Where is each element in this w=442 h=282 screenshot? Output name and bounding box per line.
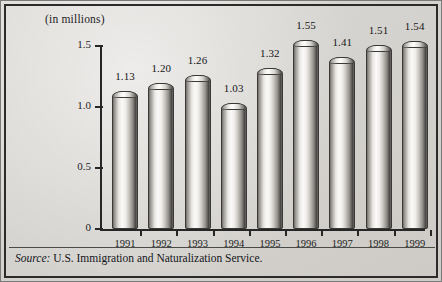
source-value: U.S. Immigration and Naturalization Serv… xyxy=(50,252,262,264)
bar-1991 xyxy=(112,91,138,229)
source-note: Source: U.S. Immigration and Naturalizat… xyxy=(15,252,262,264)
bar-value-label: 1.26 xyxy=(178,54,218,66)
bar-value-label: 1.54 xyxy=(395,20,435,32)
bar-1998 xyxy=(366,45,392,229)
bar-1995 xyxy=(257,68,283,229)
bar-value-label: 1.20 xyxy=(141,62,181,74)
x-tick xyxy=(213,230,215,236)
y-tick-label: 0.5 xyxy=(53,160,91,172)
bar-1992 xyxy=(148,83,174,229)
x-tick xyxy=(285,230,287,236)
x-tick xyxy=(321,230,323,236)
bar-value-label: 1.03 xyxy=(214,82,254,94)
footer-divider xyxy=(9,247,435,248)
y-tick-label: 1.5 xyxy=(53,38,91,50)
y-tick xyxy=(95,106,103,108)
bar-value-label: 1.55 xyxy=(286,19,326,31)
bar-value-label: 1.41 xyxy=(322,36,362,48)
bar-value-label: 1.51 xyxy=(359,24,399,36)
bar-1996 xyxy=(293,40,319,229)
x-tick xyxy=(140,230,142,236)
bar-1997 xyxy=(329,57,355,229)
x-tick xyxy=(394,230,396,236)
bar-1993 xyxy=(185,75,211,229)
x-tick xyxy=(176,230,178,236)
x-axis-line xyxy=(100,229,425,231)
chart-frame: (in millions) 00.51.01.5 1.131.201.261.0… xyxy=(0,0,442,282)
y-tick-label: 0 xyxy=(53,221,91,233)
x-tick xyxy=(357,230,359,236)
bar-value-label: 1.13 xyxy=(105,70,145,82)
y-tick xyxy=(95,45,103,47)
bar-1994 xyxy=(221,103,247,229)
bar-value-label: 1.32 xyxy=(250,47,290,59)
y-axis-line xyxy=(100,45,102,231)
y-tick xyxy=(95,167,103,169)
bar-chart: (in millions) 00.51.01.5 1.131.201.261.0… xyxy=(1,1,442,282)
bar-1999 xyxy=(402,41,428,229)
chart-title: (in millions) xyxy=(45,13,105,25)
x-tick xyxy=(249,230,251,236)
source-label: Source: xyxy=(15,252,50,264)
x-tick xyxy=(430,230,432,236)
y-tick xyxy=(95,228,103,230)
y-tick-label: 1.0 xyxy=(53,99,91,111)
